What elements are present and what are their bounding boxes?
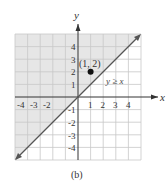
inequality-label: y ≥ x <box>105 76 123 86</box>
x-tick: 3 <box>113 100 118 110</box>
y-tick: -2 <box>68 118 76 128</box>
y-tick: 1 <box>71 80 76 90</box>
figure-caption: (b) <box>71 169 83 181</box>
x-axis-arrow-icon <box>151 95 158 100</box>
x-tick: 1 <box>88 100 93 110</box>
graph: y x -4 -3 -2 1 2 3 4 4 3 2 1 -1 -2 -3 -4… <box>0 0 168 189</box>
y-tick: 3 <box>71 55 76 65</box>
point-label: (1, 2) <box>79 58 101 70</box>
y-axis-label: y <box>73 9 79 21</box>
x-tick: 4 <box>126 100 131 110</box>
y-tick: -1 <box>68 105 76 115</box>
x-axis-label: x <box>159 91 165 103</box>
y-tick: -3 <box>68 131 76 141</box>
x-tick: -2 <box>43 100 51 110</box>
y-tick: 2 <box>71 67 76 77</box>
y-tick: -4 <box>68 143 76 153</box>
x-tick: 2 <box>101 100 106 110</box>
y-tick: 4 <box>71 42 76 52</box>
y-axis-arrow-icon <box>76 24 81 31</box>
point-marker <box>88 69 94 75</box>
x-tick: -3 <box>30 100 38 110</box>
x-tick: -4 <box>17 100 25 110</box>
